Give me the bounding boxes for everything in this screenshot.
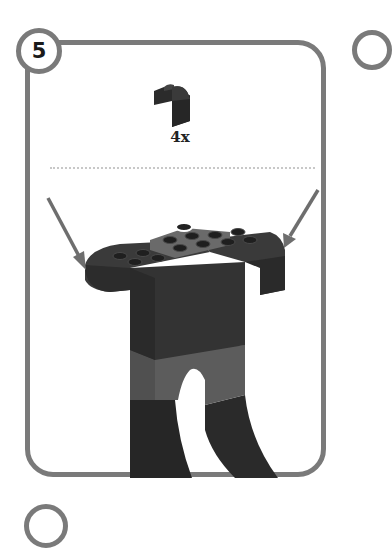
quantity-label: 4x — [150, 128, 210, 146]
lego-model-illustration — [30, 185, 340, 485]
step-number-badge: 5 — [16, 28, 62, 74]
dotted-divider — [50, 167, 315, 169]
step-number: 5 — [32, 39, 47, 63]
following-step-badge — [24, 504, 68, 548]
next-step-badge — [352, 30, 392, 70]
